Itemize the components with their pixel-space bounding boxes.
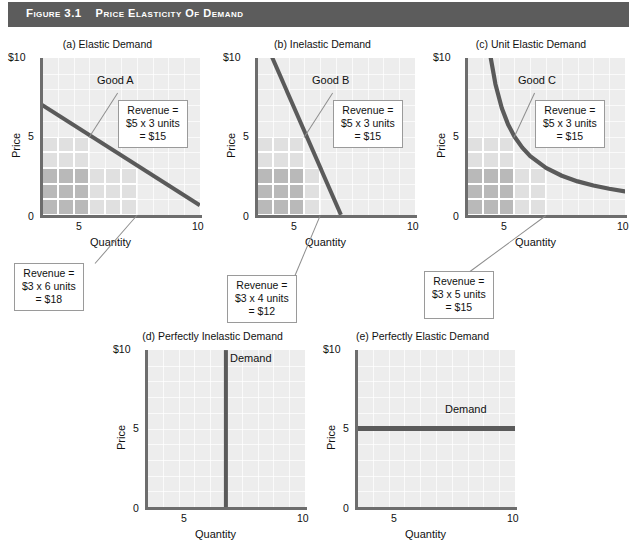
gridline-horizontal — [357, 413, 515, 414]
panel-d-plot-area — [147, 350, 305, 507]
revenue-cell — [121, 199, 137, 215]
revenue-cell — [74, 184, 90, 200]
panel-a-callout-inside-line1: Revenue = — [126, 104, 180, 117]
gridline-horizontal — [357, 366, 515, 367]
panel-b-x-axis — [255, 215, 417, 218]
panel-c-good-label: Good C — [518, 74, 556, 86]
panel-a-ytick-10: $10 — [8, 51, 26, 63]
panel-b-callout-inside: Revenue = $5 x 3 units = $15 — [333, 100, 403, 148]
figure-number: Figure 3.1 — [26, 7, 82, 19]
panel-a-good-label: Good A — [97, 74, 134, 86]
demand-curve — [357, 426, 515, 430]
revenue-cell — [304, 199, 320, 215]
panel-c-ytick-0: 0 — [453, 210, 459, 222]
panel-b-y-axis-title: Price — [225, 133, 237, 158]
panel-c-xtick-5: 5 — [501, 220, 507, 232]
revenue-cell — [42, 184, 58, 200]
revenue-cell — [89, 184, 105, 200]
revenue-cell — [74, 137, 90, 153]
revenue-cell — [105, 199, 121, 215]
panel-c-unit-elastic-demand: (c) Unit Elastic Demand $10 5 0 5 10 Pri… — [425, 38, 637, 288]
revenue-cell — [74, 168, 90, 184]
panel-c-xtick-10: 10 — [617, 220, 629, 232]
panel-b-callout-below-line2: $3 x 4 units — [235, 292, 289, 305]
panel-a-callout-below-line1: Revenue = — [22, 267, 76, 280]
panel-d-x-axis — [145, 507, 307, 510]
revenue-cell — [257, 168, 273, 184]
panel-a-ytick-5: 5 — [28, 130, 34, 142]
panel-e-demand-label: Demand — [445, 403, 487, 415]
panel-d-demand-label: Demand — [230, 352, 272, 364]
revenue-cell — [273, 152, 289, 168]
revenue-cell — [121, 168, 137, 184]
panel-c-callout-inside-line3: = $15 — [543, 130, 597, 143]
panel-e-x-axis-title: Quantity — [405, 528, 446, 540]
panel-b-callout-inside-line3: = $15 — [341, 130, 395, 143]
revenue-cell — [289, 137, 305, 153]
gridline-vertical — [242, 350, 243, 507]
panel-a-callout-inside-line2: $5 x 3 units — [126, 117, 180, 130]
panel-d-ytick-0: 0 — [133, 502, 139, 514]
gridline-horizontal — [257, 89, 415, 90]
revenue-cell — [58, 199, 74, 215]
panel-b-title: (b) Inelastic Demand — [215, 38, 430, 50]
revenue-cell — [273, 137, 289, 153]
panel-d-x-axis-title: Quantity — [195, 528, 236, 540]
panel-b-callout-inside-line2: $5 x 3 units — [341, 117, 395, 130]
panel-e-plot-area — [357, 350, 515, 507]
panel-c-ytick-5: 5 — [453, 130, 459, 142]
gridline-vertical — [273, 350, 274, 507]
gridline-vertical — [258, 350, 259, 507]
figure-title: Price Elasticity of Demand — [96, 7, 244, 19]
revenue-cell — [121, 184, 137, 200]
gridline-horizontal — [42, 89, 200, 90]
panel-a-callout-below-line2: $3 x 6 units — [22, 280, 76, 293]
panel-c-callout-inside: Revenue = $5 x 3 units = $15 — [535, 100, 605, 148]
panel-e-perfectly-elastic-demand: (e) Perfectly Elastic Demand $10 5 0 5 1… — [315, 330, 530, 545]
panel-b-xtick-5: 5 — [291, 220, 297, 232]
panel-a-title: (a) Elastic Demand — [0, 38, 215, 50]
panel-a-ytick-0: 0 — [28, 210, 34, 222]
revenue-cell — [289, 199, 305, 215]
gridline-vertical — [289, 350, 290, 507]
revenue-cell — [58, 168, 74, 184]
figure-header-bar: Figure 3.1 Price Elasticity of Demand — [8, 2, 629, 27]
revenue-cell — [257, 137, 273, 153]
panel-e-ytick-10: $10 — [323, 343, 341, 355]
panel-c-callout-inside-line1: Revenue = — [543, 104, 597, 117]
panel-d-perfectly-inelastic-demand: (d) Perfectly Inelastic Demand $10 5 0 5… — [105, 330, 320, 545]
panel-c-callout-below-line2: $3 x 5 units — [432, 288, 486, 301]
revenue-cell — [257, 199, 273, 215]
revenue-cell — [74, 152, 90, 168]
panel-c-y-axis-title: Price — [435, 133, 447, 158]
panel-e-y-axis — [355, 350, 358, 510]
revenue-cell — [289, 184, 305, 200]
revenue-cell — [74, 199, 90, 215]
panel-b-y-axis — [255, 58, 258, 218]
panel-b-ytick-5: 5 — [243, 130, 249, 142]
panel-b-ytick-10: $10 — [223, 51, 241, 63]
panel-d-y-axis — [145, 350, 148, 510]
panel-b-good-label: Good B — [312, 74, 349, 86]
revenue-cell — [105, 168, 121, 184]
panel-a-callout-inside: Revenue = $5 x 3 units = $15 — [118, 100, 188, 148]
panel-b-callout-below-line3: = $12 — [235, 305, 289, 318]
panel-b-xtick-10: 10 — [407, 220, 419, 232]
revenue-cell — [89, 168, 105, 184]
panel-e-xtick-10: 10 — [507, 512, 519, 524]
panel-e-title: (e) Perfectly Elastic Demand — [315, 330, 530, 342]
panel-c-callout-inside-line2: $5 x 3 units — [543, 117, 597, 130]
revenue-cell — [42, 168, 58, 184]
panel-b-inelastic-demand: (b) Inelastic Demand $10 5 0 5 10 Price … — [215, 38, 430, 288]
revenue-cell — [42, 152, 58, 168]
panel-e-ytick-0: 0 — [343, 502, 349, 514]
panel-c-x-axis-title: Quantity — [515, 236, 556, 248]
revenue-cell — [58, 137, 74, 153]
revenue-cell — [289, 168, 305, 184]
revenue-cell — [58, 152, 74, 168]
panel-e-x-axis — [355, 507, 517, 510]
panel-b-ytick-0: 0 — [243, 210, 249, 222]
panel-e-ytick-5: 5 — [343, 422, 349, 434]
panel-d-y-axis-title: Price — [115, 425, 127, 450]
revenue-cell — [273, 184, 289, 200]
